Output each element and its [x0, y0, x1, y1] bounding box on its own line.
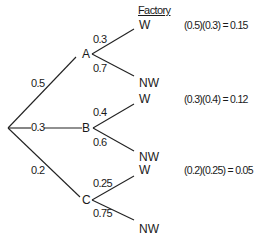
node-c: C — [82, 194, 91, 206]
node-b: B — [82, 122, 90, 134]
prob-c-nw: 0.75 — [93, 208, 112, 219]
factory-header: Factory — [138, 5, 170, 16]
leaf-c-w: W — [139, 164, 150, 176]
node-a: A — [82, 48, 90, 60]
leaf-c-nw: NW — [139, 223, 159, 235]
leaf-b-nw: NW — [139, 151, 159, 163]
prob-root-a: 0.5 — [31, 78, 45, 89]
branch-root-c — [8, 128, 80, 197]
equation-a: (0.5)(0.3) = 0.15 — [184, 20, 248, 31]
equation-c: (0.2)(0.25) = 0.05 — [184, 165, 253, 176]
leaf-a-w: W — [139, 19, 150, 31]
leaf-a-nw: NW — [139, 77, 159, 89]
equation-b: (0.3)(0.4) = 0.12 — [184, 94, 248, 105]
prob-a-w: 0.3 — [93, 34, 107, 45]
tree-lines — [0, 0, 255, 240]
prob-root-c: 0.2 — [31, 165, 45, 176]
leaf-b-w: W — [139, 93, 150, 105]
branch-root-a — [8, 57, 76, 128]
prob-b-nw: 0.6 — [93, 137, 107, 148]
prob-c-w: 0.25 — [93, 178, 112, 189]
prob-a-nw: 0.7 — [93, 63, 107, 74]
prob-b-w: 0.4 — [93, 107, 107, 118]
prob-root-b: 0.3 — [31, 122, 45, 133]
